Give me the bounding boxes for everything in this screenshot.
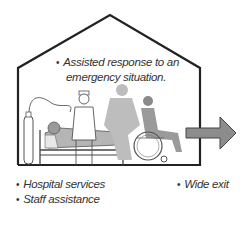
nurse-icon (72, 91, 96, 165)
exit-arrow-icon (186, 117, 236, 149)
note-hospital-services: •Hospital services (16, 178, 105, 190)
note-staff-assistance: •Staff assistance (16, 193, 100, 205)
note-assisted-response: •Assisted response to an emergency situa… (56, 55, 179, 84)
note-wide-exit: •Wide exit (177, 178, 229, 190)
wheelchair-user-icon (134, 96, 182, 162)
bullet: • (56, 57, 59, 68)
